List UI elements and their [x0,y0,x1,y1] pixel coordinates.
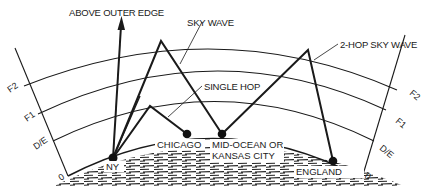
layer-arcs [24,49,397,141]
mid-ocean-dot [218,130,227,139]
england-dot [329,157,338,166]
left-axis-labels: F2 F1 D/E 0 [5,80,66,182]
arc-f1 [38,71,386,114]
right-f1-label: F1 [394,116,408,130]
right-axis-labels: F2 F1 D/E 0 [363,88,422,182]
single-hop-label: SINGLE HOP [204,81,260,92]
right-f2-label: F2 [408,88,422,102]
above-outer-edge-ray [113,26,121,158]
chicago-label: CHICAGO [157,139,201,150]
right-radial-axis [362,35,405,178]
left-f1-label: F1 [22,109,36,123]
sky-wave-label: SKY WAVE [187,17,234,28]
kansas-city-label: KANSAS CITY [212,150,275,161]
propagation-diagram: ABOVE OUTER EDGE SKY WAVE 2-HOP SKY WAVE… [0,0,427,193]
arrowhead-icon [118,16,126,30]
above-outer-edge-label: ABOVE OUTER EDGE [69,7,164,18]
left-de-label: D/E [31,135,49,152]
england-label: ENGLAND [296,166,342,177]
mid-ocean-label: MID-OCEAN OR [212,139,283,150]
left-radial-axis [15,48,68,176]
ny-label: NY [106,161,120,172]
two-hop-sky-wave-label: 2-HOP SKY WAVE [340,39,417,50]
left-f2-label: F2 [5,80,19,94]
right-de-label: D/E [378,143,396,160]
chicago-dot [183,130,192,139]
